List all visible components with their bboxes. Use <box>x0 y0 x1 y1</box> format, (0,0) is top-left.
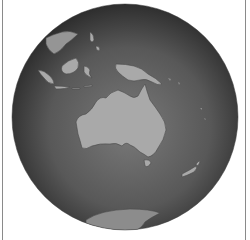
globe-map[interactable] <box>0 0 250 240</box>
